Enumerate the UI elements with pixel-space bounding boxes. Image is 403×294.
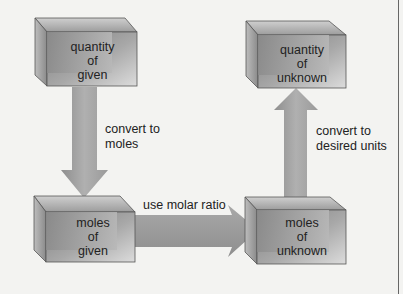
node-quantity-of-unknown-text: quantity of unknown <box>262 43 342 85</box>
node-line: unknown <box>262 71 342 85</box>
frame-border-right <box>398 0 399 294</box>
node-line: unknown <box>262 244 342 258</box>
node-moles-of-unknown-text: moles of unknown <box>262 216 342 258</box>
node-line: of <box>262 57 342 71</box>
node-line: moles <box>262 216 342 230</box>
edge-label-convert-to-desired-units: convert to desired units <box>316 124 387 154</box>
edge-label-line: use molar ratio <box>143 198 226 213</box>
edge-label-use-molar-ratio: use molar ratio <box>143 198 226 213</box>
node-line: moles <box>58 216 128 230</box>
edge-label-line: moles <box>105 137 160 152</box>
node-line: of <box>58 230 128 244</box>
edge-label-line: convert to <box>316 124 387 139</box>
node-line: quantity <box>262 43 342 57</box>
node-line: given <box>58 244 128 258</box>
node-line: quantity <box>60 40 125 54</box>
node-line: of <box>60 54 125 68</box>
arrow-down-convert-to-moles <box>61 87 108 198</box>
edge-label-line: desired units <box>316 139 387 154</box>
edge-label-line: convert to <box>105 122 160 137</box>
arrow-up-convert-to-desired-units <box>274 88 318 205</box>
node-quantity-of-given-text: quantity of given <box>60 40 125 82</box>
stoichiometry-flow-diagram: quantity of given moles of given moles o… <box>0 0 403 294</box>
node-moles-of-given-text: moles of given <box>58 216 128 258</box>
node-line: of <box>262 230 342 244</box>
node-line: given <box>60 68 125 82</box>
edge-label-convert-to-moles: convert to moles <box>105 122 160 152</box>
